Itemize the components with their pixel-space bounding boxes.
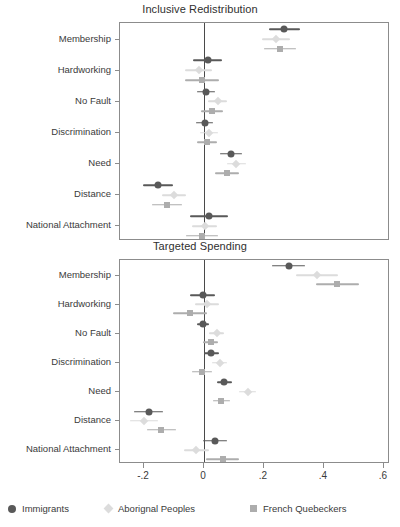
panel-title-bottom: Targeted Spending (0, 240, 400, 252)
x-axis-tick-label: -.2 (137, 470, 149, 481)
x-axis-tick (263, 463, 264, 468)
legend-item-french-quebeckers[interactable]: French Quebeckers (250, 503, 346, 514)
y-axis-label-hardworking: Hardworking (0, 297, 111, 308)
y-axis-tick (115, 101, 120, 102)
point-marker-aborignal-peoples (170, 191, 178, 199)
point-marker-french-quebeckers (199, 233, 205, 239)
point-marker-aborignal-peoples (313, 271, 321, 279)
legend-label: Aborignal Peoples (118, 503, 195, 514)
point-marker-immigrants (154, 181, 161, 188)
legend-item-immigrants[interactable]: Immigrants (8, 503, 69, 514)
y-axis-label-no-fault: No Fault (0, 94, 111, 105)
y-axis-label-hardworking: Hardworking (0, 63, 111, 74)
y-axis-label-distance: Distance (0, 414, 111, 425)
legend-label: Immigrants (22, 503, 69, 514)
point-marker-french-quebeckers (224, 170, 230, 176)
point-marker-french-quebeckers (218, 398, 224, 404)
point-marker-immigrants (203, 88, 210, 95)
y-axis-tick (115, 39, 120, 40)
y-axis-label-distance: Distance (0, 188, 111, 199)
plot-area-bottom (119, 259, 389, 463)
y-axis-tick (115, 391, 120, 392)
x-axis-tick (323, 463, 324, 468)
x-axis-tick (203, 463, 204, 468)
y-axis-tick (115, 275, 120, 276)
y-axis-label-discrimination: Discrimination (0, 126, 111, 137)
point-marker-aborignal-peoples (140, 417, 148, 425)
point-marker-aborignal-peoples (272, 35, 280, 43)
x-axis-tick-label: .2 (259, 470, 267, 481)
point-marker-immigrants (145, 408, 152, 415)
panel-title-top: Inclusive Redistribution (0, 3, 400, 15)
point-marker-immigrants (204, 57, 211, 64)
coefficient-plot-figure: Inclusive Redistribution Targeted Spendi… (0, 0, 400, 527)
point-marker-french-quebeckers (277, 46, 283, 52)
point-marker-french-quebeckers (204, 139, 210, 145)
legend-marker-square-icon (250, 505, 257, 512)
point-marker-immigrants (227, 150, 234, 157)
point-marker-aborignal-peoples (194, 66, 202, 74)
point-marker-french-quebeckers (220, 456, 226, 462)
point-marker-aborignal-peoples (216, 358, 224, 366)
point-marker-french-quebeckers (208, 339, 214, 345)
y-axis-tick (115, 163, 120, 164)
point-marker-french-quebeckers (187, 310, 193, 316)
legend-marker-diamond-icon (104, 504, 114, 514)
point-marker-aborignal-peoples (205, 128, 213, 136)
point-marker-immigrants (199, 291, 206, 298)
point-marker-immigrants (281, 26, 288, 33)
x-axis-tick (143, 463, 144, 468)
y-axis-label-need: Need (0, 385, 111, 396)
zero-reference-line-bottom (204, 260, 205, 462)
legend-label: French Quebeckers (263, 503, 346, 514)
y-axis-label-no-fault: No Fault (0, 326, 111, 337)
y-axis-label-national-attachment: National Attachment (0, 443, 111, 454)
point-marker-immigrants (212, 437, 219, 444)
y-axis-tick (115, 194, 120, 195)
legend-marker-circle-icon (8, 505, 16, 513)
point-marker-immigrants (201, 119, 208, 126)
y-axis-tick (115, 70, 120, 71)
y-axis-label-national-attachment: National Attachment (0, 219, 111, 230)
y-axis-tick (115, 449, 120, 450)
point-marker-immigrants (221, 379, 228, 386)
point-marker-immigrants (205, 213, 212, 220)
point-marker-french-quebeckers (334, 281, 340, 287)
y-axis-tick (115, 132, 120, 133)
point-marker-aborignal-peoples (213, 97, 221, 105)
point-marker-french-quebeckers (199, 369, 205, 375)
x-axis-tick-label: .6 (379, 470, 387, 481)
y-axis-tick (115, 304, 120, 305)
x-axis-tick-label: 0 (200, 470, 206, 481)
point-marker-immigrants (208, 350, 215, 357)
point-marker-french-quebeckers (158, 427, 164, 433)
point-marker-immigrants (285, 262, 292, 269)
point-marker-aborignal-peoples (232, 160, 240, 168)
point-marker-immigrants (200, 321, 207, 328)
y-axis-label-membership: Membership (0, 268, 111, 279)
point-marker-french-quebeckers (164, 202, 170, 208)
point-marker-aborignal-peoples (200, 222, 208, 230)
y-axis-label-need: Need (0, 157, 111, 168)
y-axis-label-membership: Membership (0, 32, 111, 43)
legend-item-aborignal-peoples[interactable]: Aborignal Peoples (105, 503, 195, 514)
y-axis-label-discrimination: Discrimination (0, 356, 111, 367)
point-marker-aborignal-peoples (192, 446, 200, 454)
point-marker-aborignal-peoples (212, 329, 220, 337)
point-marker-french-quebeckers (209, 108, 215, 114)
x-axis-tick-label: .4 (319, 470, 327, 481)
point-marker-aborignal-peoples (243, 387, 251, 395)
x-axis-tick (383, 463, 384, 468)
plot-area-top (119, 22, 389, 240)
point-marker-french-quebeckers (199, 77, 205, 83)
y-axis-tick (115, 362, 120, 363)
y-axis-tick (115, 333, 120, 334)
y-axis-tick (115, 225, 120, 226)
y-axis-tick (115, 420, 120, 421)
